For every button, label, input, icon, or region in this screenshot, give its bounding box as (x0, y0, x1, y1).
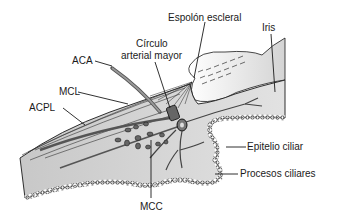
leader-aca (95, 61, 112, 66)
label-acpl: ACPL (29, 102, 56, 113)
label-circulo-line2: arterial mayor (121, 50, 183, 61)
label-aca: ACA (72, 55, 93, 66)
label-circulo-line1: Círculo (136, 38, 168, 49)
leader-mcl (78, 92, 128, 104)
label-procesos-ciliares: Procesos ciliares (240, 168, 316, 179)
label-iris: Iris (262, 22, 275, 33)
label-mcc: MCC (140, 201, 163, 212)
leader-acpl (63, 108, 85, 125)
label-mcl: MCL (59, 86, 81, 97)
ciliary-body-diagram: Espolón escleral Iris Círculo arterial m… (0, 0, 337, 222)
label-espolon-escleral: Espolón escleral (168, 12, 241, 23)
label-epitelio-ciliar: Epitelio ciliar (247, 141, 304, 152)
